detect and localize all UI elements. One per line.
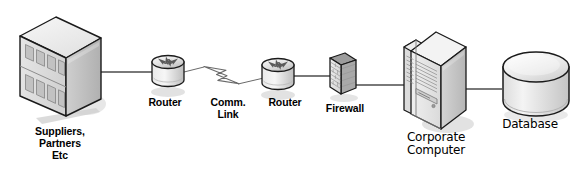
server-tower-icon <box>404 32 474 133</box>
office-building-icon <box>20 17 106 124</box>
label-router-right: Router <box>253 97 317 109</box>
lightning-bolt-icon <box>204 67 239 84</box>
label-suppliers: Suppliers, Partners Etc <box>15 126 105 161</box>
router-right-icon <box>261 59 295 101</box>
label-firewall: Firewall <box>312 103 378 115</box>
label-database: Database <box>490 118 570 131</box>
firewall-brick-icon <box>330 53 358 102</box>
router-left-icon <box>151 56 185 98</box>
network-diagram: Suppliers, Partners Etc Router Comm. Lin… <box>0 0 574 181</box>
label-comm-link: Comm. Link <box>199 97 257 121</box>
label-router-left: Router <box>133 97 197 109</box>
database-cylinder-icon <box>503 52 569 122</box>
label-corporate-computer: Corporate Computer <box>388 131 484 158</box>
